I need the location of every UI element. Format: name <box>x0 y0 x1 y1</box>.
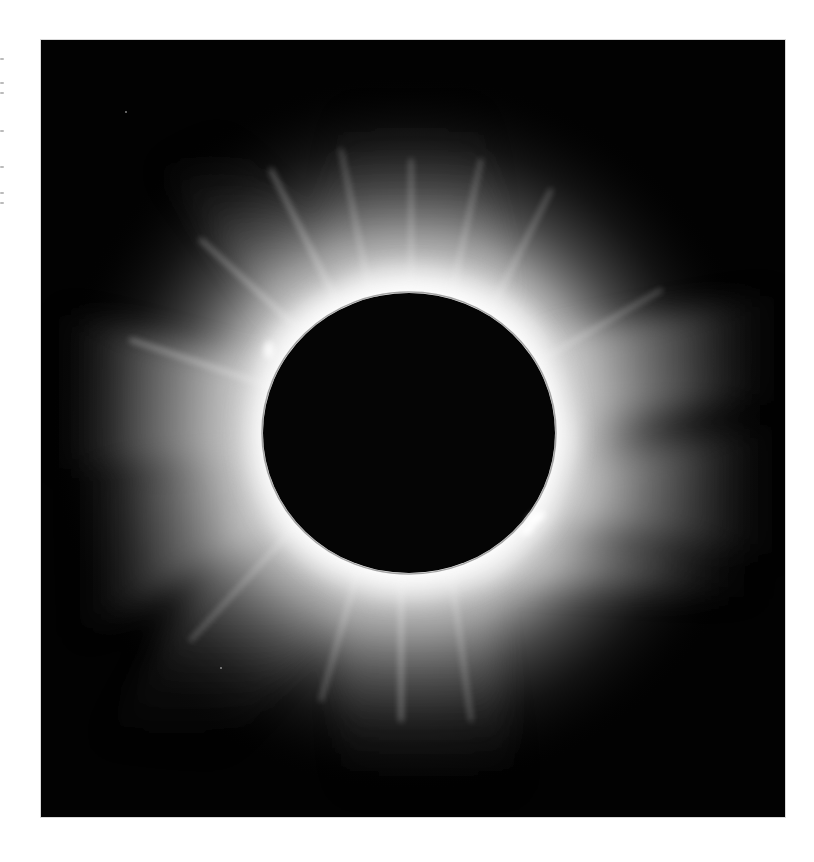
moon-disc <box>263 293 555 573</box>
text-fragment <box>0 130 4 132</box>
text-fragment <box>0 92 4 94</box>
text-fragment <box>0 166 4 168</box>
page: Total solar eclipse <box>0 0 814 862</box>
eclipse-image <box>41 40 785 817</box>
text-fragment <box>0 202 4 204</box>
text-fragment <box>0 192 4 194</box>
text-fragment <box>0 82 4 84</box>
eclipse-photo: Total solar eclipse <box>41 40 785 817</box>
text-fragment <box>0 58 4 60</box>
cropped-margin-text <box>0 50 10 220</box>
